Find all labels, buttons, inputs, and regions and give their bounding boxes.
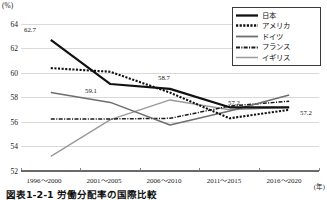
legend-item-america: アメリカ <box>236 21 317 32</box>
data-label-57-2-b: 57.2 <box>300 110 312 117</box>
legend-item-japan: 日本 <box>236 10 317 21</box>
x-tick-label-2: 2006～2010 <box>147 178 182 185</box>
legend-item-germany: ドイツ <box>236 31 317 42</box>
data-label-57-2-a: 57.2 <box>228 100 240 107</box>
legend-swatch-solid-gray-icon <box>236 32 258 41</box>
chart-figure: (%) 64 62 60 58 56 54 52 1996～2000 2001～… <box>0 0 327 200</box>
legend-item-france: フランス <box>236 42 317 53</box>
legend-swatch-solid-thick-black-icon <box>236 11 258 20</box>
legend-label-america: アメリカ <box>262 22 290 29</box>
x-tick-label-0: 1996～2000 <box>27 178 62 185</box>
data-label-58-7: 58.7 <box>158 75 170 82</box>
legend-label-japan: 日本 <box>262 12 276 19</box>
x-tick-label-4: 2016～2020 <box>267 178 302 185</box>
data-label-62-7: 62.7 <box>24 27 36 34</box>
series-line-イギリス <box>51 100 289 156</box>
legend-label-france: フランス <box>262 43 290 50</box>
legend-label-germany: ドイツ <box>262 33 283 40</box>
x-tick-label-1: 2001～2005 <box>87 178 122 185</box>
x-axis-unit-label: (年) <box>314 181 325 191</box>
legend-swatch-dotted-black-icon <box>236 21 258 30</box>
legend-label-uk: イギリス <box>262 54 290 61</box>
legend-swatch-solid-light-gray-icon <box>236 53 258 62</box>
legend-item-uk: イギリス <box>236 52 317 63</box>
x-tick-label-3: 2011～2015 <box>207 178 242 185</box>
legend: 日本 アメリカ ドイツ フランス イギリス <box>232 7 321 66</box>
data-label-59-1: 59.1 <box>85 88 97 95</box>
legend-swatch-dash-dot-black-icon <box>236 43 258 52</box>
figure-caption: 図表1-2-1 労働分配率の国際比較 <box>6 190 157 200</box>
